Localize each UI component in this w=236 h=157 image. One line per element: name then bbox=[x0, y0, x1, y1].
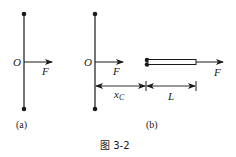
panel-a: O F (a) bbox=[13, 12, 52, 131]
rod-horizontal-b bbox=[148, 60, 196, 65]
panel-label-b: (b) bbox=[146, 119, 158, 131]
dimension-xc-label: xC bbox=[113, 88, 125, 102]
pivot-label-a: O bbox=[13, 56, 21, 68]
bottom-pivot-dot-b bbox=[93, 107, 98, 112]
figure-3-2: O F (a) O F F xC L (b) 图 3-2 bbox=[0, 0, 236, 157]
panel-label-a: (a) bbox=[16, 119, 27, 131]
force-label-b-right: F bbox=[213, 66, 221, 78]
panel-b: O F F xC L (b) bbox=[84, 12, 223, 131]
force-label-b-left: F bbox=[112, 65, 120, 77]
top-pivot-dot-a bbox=[22, 12, 27, 17]
pivot-label-b: O bbox=[84, 56, 92, 68]
dimension-length-label: L bbox=[167, 90, 174, 102]
top-pivot-dot-b bbox=[93, 12, 98, 17]
figure-caption: 图 3-2 bbox=[100, 140, 130, 151]
force-label-a: F bbox=[41, 65, 49, 77]
bottom-pivot-dot-a bbox=[22, 107, 27, 112]
